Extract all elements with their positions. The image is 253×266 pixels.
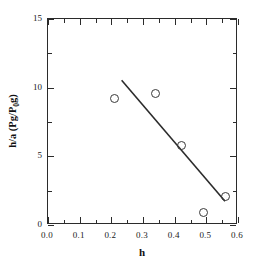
- figure-container: 0.00.10.20.30.40.50.6 051015 h h/a (Pg/P…: [0, 0, 253, 266]
- x-tick-label: 0.3: [136, 230, 148, 240]
- y-axis-tick-major: [48, 225, 54, 226]
- x-axis-title: h: [47, 246, 237, 258]
- data-point-marker: [199, 208, 208, 217]
- y-axis-title-sub: 0: [12, 103, 21, 107]
- x-axis-tick-minor: [159, 220, 160, 224]
- y-axis-tick-minor: [48, 53, 52, 54]
- x-axis-tick-major: [143, 217, 144, 223]
- x-axis-tick-minor-top: [96, 19, 97, 23]
- x-axis-tick-minor-top: [191, 19, 192, 23]
- x-axis-tick-minor: [222, 220, 223, 224]
- x-tick-label: 0.5: [199, 230, 211, 240]
- x-tick-label: 0.1: [73, 230, 85, 240]
- y-axis-tick-major: [48, 88, 54, 89]
- x-axis-tick-major-top: [111, 19, 112, 25]
- fit-line-segment: [122, 80, 225, 201]
- y-axis-tick-minor-right: [233, 191, 237, 192]
- data-point-marker: [151, 89, 160, 98]
- x-axis-tick-major-top: [175, 19, 176, 25]
- y-axis-title: h/a (Pg/P0g): [7, 94, 20, 148]
- y-axis-tick-major-right: [230, 88, 236, 89]
- data-point-marker: [110, 94, 119, 103]
- y-tick-label: 5: [24, 150, 42, 160]
- x-axis-tick-major: [111, 217, 112, 223]
- x-axis-tick-minor: [191, 220, 192, 224]
- y-axis-tick-major-right: [230, 19, 236, 20]
- y-axis-tick-major: [48, 156, 54, 157]
- x-axis-tick-major: [206, 217, 207, 223]
- x-axis-tick-major: [175, 217, 176, 223]
- x-axis-tick-major-top: [80, 19, 81, 25]
- x-tick-label: 0.4: [168, 230, 180, 240]
- y-tick-label: 0: [24, 219, 42, 229]
- x-axis-tick-minor: [64, 220, 65, 224]
- x-axis-tick-major-top: [238, 19, 239, 25]
- data-point-marker: [177, 141, 186, 150]
- y-tick-label: 15: [24, 13, 42, 23]
- x-axis-tick-major-top: [143, 19, 144, 25]
- x-axis-tick-minor-top: [64, 19, 65, 23]
- x-tick-label: 0.2: [104, 230, 116, 240]
- y-axis-tick-minor: [48, 191, 52, 192]
- x-axis-tick-minor-top: [127, 19, 128, 23]
- y-axis-tick-minor-right: [233, 122, 237, 123]
- x-axis-tick-minor-top: [222, 19, 223, 23]
- y-axis-title-post: g): [7, 94, 18, 103]
- y-axis-title-pre: h/a (Pg/P: [7, 107, 18, 148]
- x-axis-tick-major-top: [206, 19, 207, 25]
- y-axis-tick-major-right: [230, 225, 236, 226]
- fit-line: [48, 19, 236, 223]
- x-tick-label: 0.0: [41, 230, 53, 240]
- y-axis-tick-major-right: [230, 156, 236, 157]
- x-axis-tick-major: [80, 217, 81, 223]
- y-axis-tick-minor-right: [233, 53, 237, 54]
- y-axis-tick-minor: [48, 122, 52, 123]
- plot-area: [47, 18, 237, 224]
- y-axis-tick-major: [48, 19, 54, 20]
- data-point-marker: [221, 192, 230, 201]
- x-axis-tick-minor-top: [159, 19, 160, 23]
- x-axis-tick-minor: [96, 220, 97, 224]
- x-tick-label: 0.6: [231, 230, 243, 240]
- y-tick-label: 10: [24, 82, 42, 92]
- x-axis-tick-major: [48, 217, 49, 223]
- x-axis-tick-minor: [127, 220, 128, 224]
- plot-inner: [48, 19, 236, 223]
- y-axis-title-wrap: h/a (Pg/P0g): [3, 18, 25, 224]
- x-axis-tick-major: [238, 217, 239, 223]
